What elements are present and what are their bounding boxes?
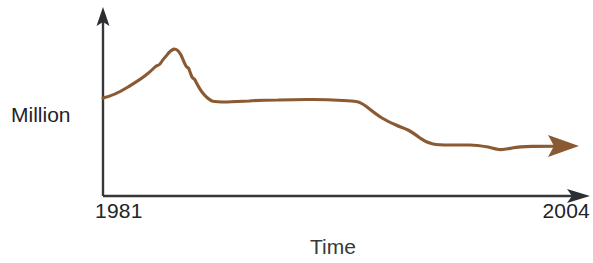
x-tick-label-end: 2004 xyxy=(542,199,590,222)
line-chart-canvas: Million 1981 2004 Time xyxy=(0,0,593,263)
chart-background xyxy=(0,0,593,263)
x-axis-title: Time xyxy=(310,235,356,258)
chart-figure: Million 1981 2004 Time xyxy=(0,0,593,263)
y-axis-label: Million xyxy=(11,103,71,126)
x-tick-label-start: 1981 xyxy=(95,199,143,222)
